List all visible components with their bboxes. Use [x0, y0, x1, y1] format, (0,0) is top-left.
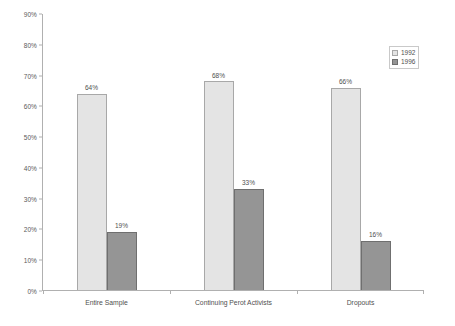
bar-value-label-1992-entire-sample: 64% — [85, 84, 98, 91]
y-tick-label-10: 10% — [24, 257, 37, 264]
bar-wrap-1992-dropouts: 66% — [331, 14, 361, 290]
bar-1992-dropouts[interactable] — [331, 88, 361, 290]
legend-item-1992[interactable]: 1992 — [392, 49, 415, 57]
bar-value-label-1996-dropouts: 16% — [369, 231, 382, 238]
bar-wrap-1996-dropouts: 16% — [361, 14, 391, 290]
bar-group-continuing-perot-activists: 68% 33% — [170, 14, 297, 290]
legend-item-1996[interactable]: 1996 — [392, 58, 415, 66]
y-tick-label-80: 80% — [24, 41, 37, 48]
y-tick-label-40: 40% — [24, 164, 37, 171]
bar-1996-entire-sample[interactable] — [107, 232, 137, 290]
y-tick-label-70: 70% — [24, 72, 37, 79]
y-axis: 90% 80% 70% 60% 50% 40% 30% 20% 10% 0% — [0, 14, 42, 291]
bar-value-label-1992-dropouts: 66% — [339, 78, 352, 85]
bar-wrap-1992-entire-sample: 64% — [77, 14, 107, 290]
legend-swatch-icon-1996 — [392, 59, 398, 65]
bar-value-label-1992-continuing-perot-activists: 68% — [212, 72, 225, 79]
x-category-label-dropouts: Dropouts — [297, 293, 424, 315]
x-category-label-continuing-perot-activists: Continuing Perot Activists — [170, 293, 297, 315]
y-tick-label-90: 90% — [24, 11, 37, 18]
y-tick-label-0: 0% — [27, 288, 37, 295]
bar-group-entire-sample: 64% 19% — [43, 14, 170, 290]
bar-value-label-1996-continuing-perot-activists: 33% — [242, 179, 255, 186]
bar-wrap-1996-continuing-perot-activists: 33% — [234, 14, 264, 290]
legend-label-1996: 1996 — [401, 58, 415, 66]
bar-1992-entire-sample[interactable] — [77, 94, 107, 290]
y-tick-label-60: 60% — [24, 103, 37, 110]
bar-value-label-1996-entire-sample: 19% — [115, 222, 128, 229]
x-category-label-entire-sample: Entire Sample — [43, 293, 170, 315]
bar-chart: 90% 80% 70% 60% 50% 40% 30% 20% 10% 0% 6… — [0, 0, 455, 326]
bar-1996-continuing-perot-activists[interactable] — [234, 189, 264, 290]
y-tick-label-50: 50% — [24, 134, 37, 141]
legend-label-1992: 1992 — [401, 49, 415, 57]
legend: 1992 1996 — [389, 46, 419, 69]
bar-groups: 64% 19% 68% 33% — [43, 14, 424, 290]
bar-1992-continuing-perot-activists[interactable] — [204, 81, 234, 290]
y-tick-label-30: 30% — [24, 195, 37, 202]
bar-wrap-1996-entire-sample: 19% — [107, 14, 137, 290]
y-tick-label-20: 20% — [24, 226, 37, 233]
bar-wrap-1992-continuing-perot-activists: 68% — [204, 14, 234, 290]
bar-1996-dropouts[interactable] — [361, 241, 391, 290]
legend-swatch-icon-1992 — [392, 50, 398, 56]
x-axis: Entire Sample Continuing Perot Activists… — [43, 293, 424, 315]
